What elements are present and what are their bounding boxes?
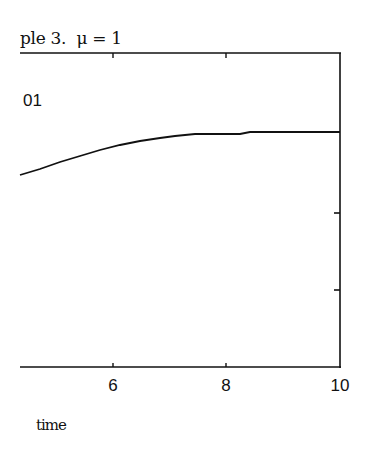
x-tick-label: 6 <box>108 376 117 396</box>
x-axis-label: time <box>36 416 66 434</box>
series-line-01 <box>20 132 340 175</box>
plot-area <box>0 0 368 454</box>
curve-label: 01 <box>23 91 42 111</box>
x-tick-label: 8 <box>221 376 230 396</box>
x-tick-label: 10 <box>331 376 350 396</box>
